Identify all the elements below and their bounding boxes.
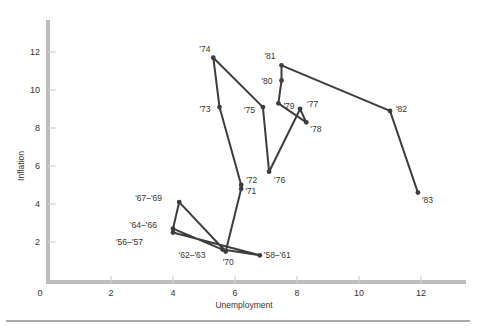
data-point <box>304 120 309 125</box>
point-label: '73 <box>200 104 211 114</box>
point-label: '77 <box>307 99 318 109</box>
point-label: '56–'57 <box>116 237 143 247</box>
point-label: '62–'63 <box>179 250 206 260</box>
x-axis-title: Unemployment <box>215 300 273 310</box>
point-label: '75 <box>244 105 255 115</box>
data-point <box>171 226 176 231</box>
x-tick-label: 0 <box>37 288 42 298</box>
data-point <box>261 105 266 110</box>
x-tick-label: 4 <box>170 288 175 298</box>
y-tick-label: 10 <box>30 85 40 95</box>
x-tick-label: 8 <box>294 288 299 298</box>
point-labels: '56–'57'58–'61'62–'63'64–'66'67–'69'70'7… <box>116 44 433 267</box>
inflation-unemployment-chart: 24681012024681012 '56–'57'58–'61'62–'63'… <box>0 0 483 328</box>
data-point <box>279 78 284 83</box>
data-point <box>298 107 303 112</box>
point-label: '76 <box>274 175 285 185</box>
y-axis-title: Inflation <box>16 151 26 181</box>
point-label: '58–'61 <box>264 250 291 260</box>
point-label: '67–'69 <box>135 193 162 203</box>
x-tick-label: 2 <box>108 288 113 298</box>
point-label: '78 <box>310 124 321 134</box>
data-point <box>279 63 284 68</box>
point-label: '81 <box>265 51 276 61</box>
series-line <box>173 58 418 256</box>
point-label: '82 <box>396 104 407 114</box>
data-point <box>223 249 228 254</box>
point-label: '79 <box>283 101 294 111</box>
y-tick-label: 12 <box>30 47 40 57</box>
data-point <box>239 183 244 188</box>
data-point <box>267 169 272 174</box>
point-label: '70 <box>223 257 234 267</box>
data-point <box>388 109 393 114</box>
data-point <box>217 105 222 110</box>
point-label: '80 <box>262 76 273 86</box>
point-label: '74 <box>199 44 210 54</box>
data-point <box>276 101 281 106</box>
point-label: '72 <box>246 175 257 185</box>
data-series <box>171 55 421 257</box>
y-tick-label: 6 <box>35 161 40 171</box>
data-point <box>416 190 421 195</box>
data-point <box>211 55 216 60</box>
x-tick-label: 12 <box>416 288 426 298</box>
data-point <box>257 253 262 258</box>
point-label: '71 <box>245 186 256 196</box>
y-tick-label: 4 <box>35 199 40 209</box>
point-label: '64–'66 <box>130 220 157 230</box>
y-tick-label: 2 <box>35 237 40 247</box>
point-label: '83 <box>422 195 433 205</box>
y-tick-label: 8 <box>35 123 40 133</box>
x-tick-label: 6 <box>232 288 237 298</box>
x-tick-label: 10 <box>354 288 364 298</box>
data-point <box>177 200 182 205</box>
